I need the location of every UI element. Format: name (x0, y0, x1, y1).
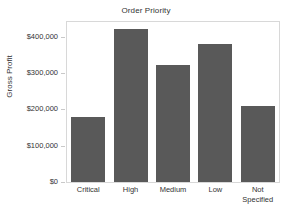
bar-not-specified[interactable] (241, 106, 275, 182)
plot-area (67, 22, 279, 182)
bar-high[interactable] (114, 29, 148, 182)
y-tick-label: $100,000 (27, 141, 58, 150)
plot-frame (66, 21, 280, 183)
y-tick-mark (61, 146, 65, 147)
x-tick-label-high: High (109, 185, 151, 195)
x-tick-label-medium: Medium (152, 185, 194, 195)
x-tick-label-line2: Specified (237, 195, 279, 205)
y-tick-label: $0 (50, 177, 58, 186)
y-tick-mark (61, 182, 65, 183)
x-tick-label-not-specified: NotSpecified (237, 185, 279, 204)
x-axis-ticks: CriticalHighMediumLowNotSpecified (66, 185, 280, 223)
y-tick-label: $400,000 (27, 32, 58, 41)
bar-chart: Order Priority Gross Profit $0$100,000$2… (0, 0, 292, 224)
y-tick-label: $300,000 (27, 68, 58, 77)
y-tick-label: $200,000 (27, 104, 58, 113)
y-tick-mark (61, 109, 65, 110)
bar-medium[interactable] (156, 65, 190, 182)
chart-title: Order Priority (0, 6, 292, 15)
y-tick-mark (61, 37, 65, 38)
x-tick-label-critical: Critical (67, 185, 109, 195)
bar-low[interactable] (198, 44, 232, 182)
y-tick-mark (61, 73, 65, 74)
y-axis-ticks: $0$100,000$200,000$300,000$400,000 (0, 21, 66, 183)
x-tick-label-low: Low (194, 185, 236, 195)
bar-critical[interactable] (71, 117, 105, 182)
